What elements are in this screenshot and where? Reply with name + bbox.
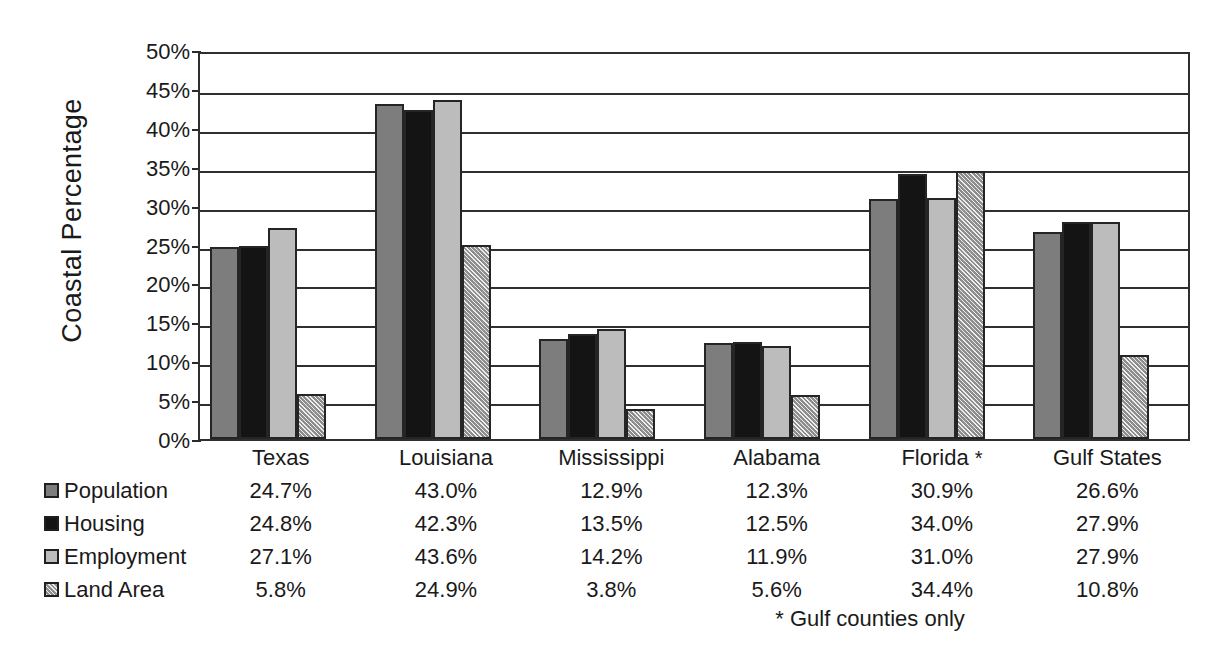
data-table: 24.7%43.0%12.9%12.3%30.9%26.6%24.8%42.3%…	[198, 474, 1190, 606]
legend-item-population[interactable]: Population	[44, 474, 204, 507]
bar[interactable]	[733, 342, 762, 439]
bar[interactable]	[568, 334, 597, 439]
x-axis-category-label: Louisiana	[363, 444, 528, 474]
bar[interactable]	[1120, 355, 1149, 439]
y-axis-tick-label: 30%	[118, 197, 190, 219]
y-axis-tick-label: 0%	[118, 430, 190, 452]
y-axis-tick-label: 5%	[118, 391, 190, 413]
y-axis-tick-label: 15%	[118, 313, 190, 335]
table-cell: 12.9%	[529, 474, 694, 507]
bar[interactable]	[869, 199, 898, 439]
y-axis-title: Coastal Percentage	[57, 31, 88, 411]
legend-item-employment[interactable]: Employment	[44, 540, 204, 573]
bar[interactable]	[462, 245, 491, 439]
bar[interactable]	[1062, 222, 1091, 439]
bar[interactable]	[433, 100, 462, 439]
y-axis-tick-label: 35%	[118, 158, 190, 180]
bar-group	[365, 54, 530, 439]
legend-swatch-icon	[44, 582, 59, 597]
bar-group	[529, 54, 694, 439]
table-cell: 11.9%	[694, 540, 859, 573]
table-cell: 12.3%	[694, 474, 859, 507]
footnote: * Gulf counties only	[660, 606, 1080, 632]
bar[interactable]	[626, 409, 655, 439]
table-cell: 27.9%	[1025, 540, 1190, 573]
table-cell: 26.6%	[1025, 474, 1190, 507]
bar[interactable]	[539, 339, 568, 439]
table-cell: 24.7%	[198, 474, 363, 507]
bar[interactable]	[597, 329, 626, 439]
table-cell: 43.0%	[363, 474, 528, 507]
legend: PopulationHousingEmploymentLand Area	[44, 474, 204, 606]
bar-groups	[200, 54, 1188, 439]
legend-swatch-icon	[44, 483, 59, 498]
x-axis-category-label: Mississippi	[529, 444, 694, 474]
table-cell: 31.0%	[859, 540, 1024, 573]
table-cell: 43.6%	[363, 540, 528, 573]
footnote-marker: *	[975, 447, 983, 469]
bar[interactable]	[239, 246, 268, 439]
legend-item-label: Population	[64, 479, 168, 503]
x-axis-category-label: Gulf States	[1025, 444, 1190, 474]
table-cell: 24.8%	[198, 507, 363, 540]
legend-item-label: Employment	[64, 545, 186, 569]
legend-item-label: Land Area	[64, 578, 164, 602]
bar[interactable]	[956, 171, 985, 439]
table-cell: 13.5%	[529, 507, 694, 540]
chart-root: Coastal Percentage 50%45%40%35%30%25%20%…	[0, 0, 1223, 671]
bar[interactable]	[704, 343, 733, 439]
y-axis-tick-label: 40%	[118, 119, 190, 141]
y-axis-tick-label: 20%	[118, 274, 190, 296]
bar[interactable]	[1033, 232, 1062, 439]
legend-swatch-icon	[44, 516, 59, 531]
table-cell: 34.4%	[859, 573, 1024, 606]
bar-group	[200, 54, 365, 439]
bar-group	[859, 54, 1024, 439]
y-axis-tick-label: 10%	[118, 352, 190, 374]
table-row: 24.8%42.3%13.5%12.5%34.0%27.9%	[198, 507, 1190, 540]
table-cell: 5.8%	[198, 573, 363, 606]
x-axis-category-label: Texas	[198, 444, 363, 474]
table-cell: 27.1%	[198, 540, 363, 573]
bar-group	[1023, 54, 1188, 439]
table-row: 27.1%43.6%14.2%11.9%31.0%27.9%	[198, 540, 1190, 573]
table-cell: 12.5%	[694, 507, 859, 540]
legend-item-housing[interactable]: Housing	[44, 507, 204, 540]
plot-area	[198, 52, 1190, 441]
bar-group	[694, 54, 859, 439]
table-cell: 10.8%	[1025, 573, 1190, 606]
table-row: 24.7%43.0%12.9%12.3%30.9%26.6%	[198, 474, 1190, 507]
table-cell: 42.3%	[363, 507, 528, 540]
y-axis-tick-label: 50%	[118, 41, 190, 63]
bar[interactable]	[1091, 222, 1120, 439]
table-row: 5.8%24.9%3.8%5.6%34.4%10.8%	[198, 573, 1190, 606]
bar[interactable]	[268, 228, 297, 439]
x-axis-category-label: Florida *	[859, 444, 1024, 474]
bar[interactable]	[927, 198, 956, 439]
table-cell: 30.9%	[859, 474, 1024, 507]
bar[interactable]	[210, 247, 239, 439]
table-cell: 5.6%	[694, 573, 859, 606]
table-cell: 34.0%	[859, 507, 1024, 540]
bar[interactable]	[297, 394, 326, 439]
table-cell: 27.9%	[1025, 507, 1190, 540]
y-axis-tick-label: 25%	[118, 236, 190, 258]
legend-item-label: Housing	[64, 512, 145, 536]
table-cell: 14.2%	[529, 540, 694, 573]
bar[interactable]	[404, 110, 433, 439]
table-cell: 3.8%	[529, 573, 694, 606]
bar[interactable]	[375, 104, 404, 439]
y-axis-tick-labels: 50%45%40%35%30%25%20%15%10%5%0%	[118, 41, 190, 441]
bar[interactable]	[762, 346, 791, 439]
y-axis-tick-label: 45%	[118, 80, 190, 102]
legend-item-land-area[interactable]: Land Area	[44, 573, 204, 606]
x-axis-category-labels: TexasLouisianaMississippiAlabamaFlorida …	[198, 444, 1190, 474]
x-axis-category-label: Alabama	[694, 444, 859, 474]
bar[interactable]	[898, 174, 927, 439]
legend-swatch-icon	[44, 549, 59, 564]
table-cell: 24.9%	[363, 573, 528, 606]
bar[interactable]	[791, 395, 820, 439]
